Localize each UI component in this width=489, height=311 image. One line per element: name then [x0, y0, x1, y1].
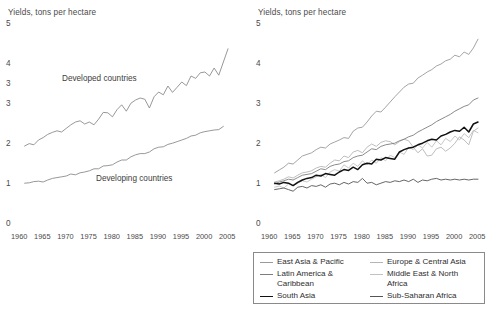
right-chart-title: Yields, tons per hectare — [258, 8, 346, 17]
x-axis-tick-label: 2000 — [446, 233, 462, 240]
x-axis-tick-label: 1990 — [400, 233, 416, 240]
x-axis-tick-label: 2000 — [196, 233, 212, 240]
series-line — [25, 49, 228, 146]
legend-swatch-line-icon — [370, 274, 383, 275]
y-axis-tick-label: 2 — [256, 140, 261, 148]
legend-swatch-line-icon — [260, 296, 273, 297]
x-axis-tick-label: 1965 — [34, 233, 50, 240]
legend-column-left: East Asia & PacificLatin America & Carib… — [260, 257, 370, 301]
x-axis-tick-label: 1960 — [11, 233, 27, 240]
series-line — [275, 39, 478, 173]
x-axis-tick-label: 1975 — [330, 233, 346, 240]
developed-countries-label: Developed countries — [62, 74, 137, 83]
legend-item-label: Sub-Saharan Africa — [387, 291, 456, 302]
series-line — [275, 178, 478, 191]
y-axis-tick-label: 5 — [256, 20, 261, 28]
y-axis-tick-label: 1 — [6, 180, 11, 188]
x-axis-tick-label: 1985 — [127, 233, 143, 240]
figure-root: Yields, tons per hectare 543321019601965… — [0, 0, 489, 311]
legend-item[interactable]: Sub-Saharan Africa — [370, 291, 480, 302]
x-axis-tick-label: 1965 — [284, 233, 300, 240]
y-axis-tick-label: 1 — [256, 180, 261, 188]
legend-swatch-line-icon — [260, 262, 273, 263]
x-axis-tick-label: 1995 — [173, 233, 189, 240]
legend-item-label: Europe & Central Asia — [387, 257, 466, 268]
legend-item[interactable]: East Asia & Pacific — [260, 257, 370, 268]
series-line — [275, 122, 478, 186]
legend-item-label: Latin America & Caribbean — [277, 269, 333, 290]
left-chart-panel: Yields, tons per hectare 543321019601965… — [0, 0, 245, 250]
legend-item-label: South Asia — [277, 291, 315, 302]
left-chart-title: Yields, tons per hectare — [8, 8, 96, 17]
right-chart-panel: Yields, tons per hectare 543210196019651… — [250, 0, 489, 250]
legend-swatch-line-icon — [370, 296, 383, 297]
y-axis-tick-label: 4 — [256, 60, 261, 68]
legend-box: East Asia & PacificLatin America & Carib… — [253, 252, 485, 304]
legend-item-label: Middle East & North Africa — [387, 269, 458, 290]
x-axis-tick-label: 2005 — [219, 233, 235, 240]
x-axis-tick-label: 1970 — [57, 233, 73, 240]
y-axis-tick-label: 4 — [6, 60, 11, 68]
y-axis-tick-label: 0 — [256, 220, 261, 228]
x-axis-tick-label: 1985 — [377, 233, 393, 240]
y-axis-tick-label: 2 — [6, 140, 11, 148]
legend-item[interactable]: Europe & Central Asia — [370, 257, 480, 268]
x-axis-tick-label: 1960 — [261, 233, 277, 240]
x-axis-tick-label: 1970 — [307, 233, 323, 240]
legend-item[interactable]: South Asia — [260, 291, 370, 302]
y-axis-tick-label: 3 — [6, 80, 11, 88]
legend-swatch-line-icon — [260, 274, 273, 275]
x-axis-tick-label: 1980 — [353, 233, 369, 240]
x-axis-tick-label: 2005 — [469, 233, 485, 240]
x-axis-tick-label: 1995 — [423, 233, 439, 240]
developing-countries-label: Developing countries — [96, 174, 172, 183]
x-axis-tick-label: 1975 — [80, 233, 96, 240]
y-axis-tick-label: 3 — [256, 100, 261, 108]
left-series-lines — [0, 18, 245, 228]
x-axis-tick-label: 1990 — [150, 233, 166, 240]
right-series-lines — [250, 18, 489, 228]
legend-item[interactable]: Latin America & Caribbean — [260, 269, 370, 290]
legend-swatch-line-icon — [370, 262, 383, 263]
x-axis-tick-label: 1980 — [103, 233, 119, 240]
legend-item-label: East Asia & Pacific — [277, 257, 344, 268]
legend-item[interactable]: Middle East & North Africa — [370, 269, 480, 290]
y-axis-tick-label: 3 — [6, 100, 11, 108]
y-axis-tick-label: 5 — [6, 20, 11, 28]
y-axis-tick-label: 0 — [6, 220, 11, 228]
legend-column-right: Europe & Central AsiaMiddle East & North… — [370, 257, 480, 301]
